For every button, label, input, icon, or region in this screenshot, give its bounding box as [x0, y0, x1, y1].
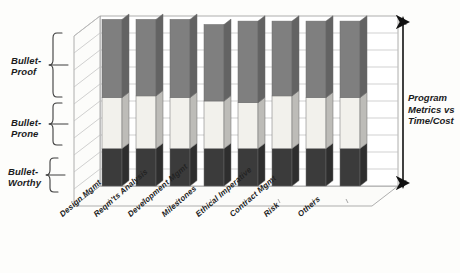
bar-segment-bullet-worthy — [340, 149, 360, 186]
bar-segment-side — [258, 97, 265, 148]
bar-segment-side — [360, 92, 367, 148]
bar-segment-bullet-prone — [238, 103, 258, 149]
bar-segment-side — [190, 92, 197, 148]
bar-segment-side — [292, 143, 299, 186]
chart-canvas: Bullet- Proof Bullet- Prone Bullet- Wort… — [0, 0, 460, 273]
bar-segment-bullet-worthy — [204, 149, 224, 186]
bar-segment-bullet-proof — [238, 21, 258, 103]
bar-segment-side — [224, 19, 231, 101]
bar-segment-bullet-prone — [102, 98, 122, 149]
bar-column — [102, 14, 129, 186]
bar-segment-side — [156, 14, 163, 96]
bar-segment-bullet-proof — [306, 21, 326, 98]
bar-segment-side — [122, 14, 129, 98]
zone-label-bullet-prone: Bullet- Prone — [11, 117, 41, 139]
bar-segment-side — [224, 96, 231, 149]
bar-segment-side — [326, 16, 333, 98]
bar-segment-bullet-proof — [272, 21, 292, 96]
bar-segment-side — [292, 16, 299, 96]
bar-segment-bullet-proof — [102, 19, 122, 97]
bar-segment-side — [360, 16, 367, 98]
bar-segment-side — [258, 16, 265, 103]
bar-column — [170, 14, 197, 186]
bar-segment-bullet-prone — [170, 98, 190, 149]
bar-segment-bullet-worthy — [102, 149, 122, 186]
bar-segment-side — [190, 143, 197, 186]
bar-column — [340, 16, 367, 186]
bar-column — [272, 16, 299, 186]
bar-segment-side — [122, 92, 129, 148]
bar-segment-side — [360, 143, 367, 186]
bar-column — [136, 14, 163, 186]
bar-segment-bullet-worthy — [306, 149, 326, 186]
chart-svg — [0, 0, 460, 273]
bar-segment-bullet-proof — [170, 19, 190, 97]
bar-segment-bullet-prone — [272, 96, 292, 149]
bar-column — [238, 16, 265, 186]
bar-segment-side — [292, 91, 299, 149]
bar-segment-bullet-prone — [204, 101, 224, 149]
bar-column — [306, 16, 333, 186]
bar-column — [204, 19, 231, 186]
bar-segment-bullet-proof — [136, 19, 156, 96]
axis-range-arrow — [400, 16, 407, 189]
axis-range-annotation-label: Program Metrics vs Time/Cost — [408, 92, 460, 127]
bar-segment-bullet-proof — [204, 25, 224, 102]
bar-segment-bullet-proof — [340, 21, 360, 98]
zone-label-bullet-proof: Bullet- Proof — [11, 55, 41, 77]
bar-segment-side — [326, 143, 333, 186]
bar-segment-bullet-prone — [340, 98, 360, 149]
zone-label-bullet-worthy: Bullet- Worthy — [8, 166, 41, 188]
bar-segment-side — [156, 91, 163, 149]
bar-segment-side — [326, 92, 333, 148]
zone-braces — [46, 33, 68, 192]
bar-segment-bullet-prone — [306, 98, 326, 149]
bar-segment-side — [190, 14, 197, 98]
bar-segment-bullet-prone — [136, 96, 156, 149]
